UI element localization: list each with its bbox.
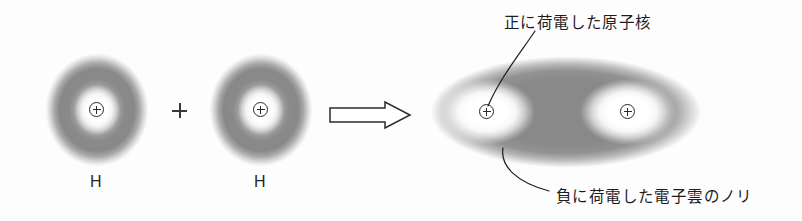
atom-1-element-label: H xyxy=(90,173,102,191)
atom-2-element-label: H xyxy=(254,173,266,191)
molecule-nucleus-left-icon xyxy=(479,104,494,119)
electron-cloud-callout-label: 負に荷電した電子雲のノリ xyxy=(556,184,753,206)
plus-operator-icon xyxy=(172,103,187,118)
atom-2-nucleus-icon xyxy=(253,102,268,117)
nucleus-callout-label: 正に荷電した原子核 xyxy=(504,10,652,32)
hydrogen-molecule-formation-figure: H H 正に荷電した原子核 負に荷電した電子雲のノリ xyxy=(0,0,802,221)
atom-1-nucleus-icon xyxy=(89,102,104,117)
molecule-electron-cloud xyxy=(430,56,702,168)
molecule-nucleus-right-icon xyxy=(620,104,635,119)
